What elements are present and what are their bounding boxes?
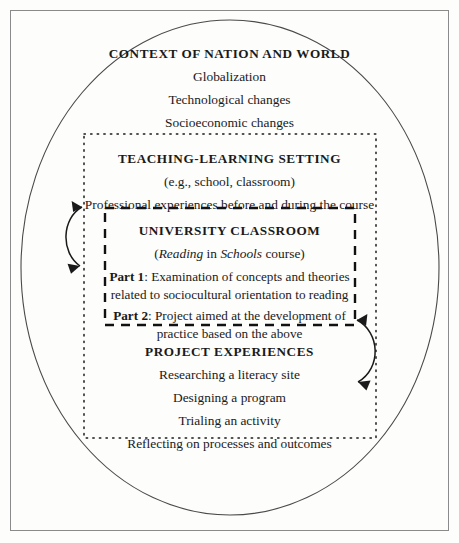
part-2-line-1: Part 2: Project aimed at the development… xyxy=(0,308,459,324)
context-of-nation-and-world-section: CONTEXT OF NATION AND WORLD Globalizatio… xyxy=(0,46,459,131)
teaching-learning-setting-subtitle: (e.g., school, classroom) xyxy=(0,174,459,190)
figure-root: CONTEXT OF NATION AND WORLD Globalizatio… xyxy=(0,0,459,543)
course-title-course-suffix: course) xyxy=(262,246,305,261)
part-2-text-line-1: Project aimed at the development of xyxy=(155,308,346,323)
project-experiences-section: PROJECT EXPERIENCES Researching a litera… xyxy=(0,344,459,452)
project-line-designing-a-program: Designing a program xyxy=(0,390,459,406)
teaching-learning-setting-heading: TEACHING-LEARNING SETTING xyxy=(0,151,459,167)
university-classroom-section: UNIVERSITY CLASSROOM (Reading in Schools… xyxy=(0,223,459,342)
course-title-reading: Reading xyxy=(159,246,204,261)
teaching-learning-setting-section: TEACHING-LEARNING SETTING (e.g., school,… xyxy=(0,151,459,213)
part-1-label: Part 1 xyxy=(109,269,144,284)
part-1-line-2: related to sociocultural orientation to … xyxy=(0,287,459,303)
project-line-trialing-an-activity: Trialing an activity xyxy=(0,413,459,429)
course-title-in: in xyxy=(203,246,220,261)
context-line-socioeconomic-changes: Socioeconomic changes xyxy=(0,115,459,131)
teaching-learning-setting-line-professional-experiences: Professional experiences before and duri… xyxy=(0,197,459,213)
part-2-line-2: practice based on the above xyxy=(0,326,459,342)
part-1-line-1: Part 1: Examination of concepts and theo… xyxy=(0,269,459,285)
part-2-colon: : xyxy=(148,308,155,323)
university-classroom-course-title: (Reading in Schools course) xyxy=(0,246,459,262)
part-1-text-line-1: Examination of concepts and theories xyxy=(151,269,349,284)
context-heading: CONTEXT OF NATION AND WORLD xyxy=(0,46,459,62)
project-line-researching-a-literacy-site: Researching a literacy site xyxy=(0,367,459,383)
context-line-technological-changes: Technological changes xyxy=(0,92,459,108)
course-title-schools: Schools xyxy=(220,246,262,261)
context-line-globalization: Globalization xyxy=(0,69,459,85)
project-experiences-heading: PROJECT EXPERIENCES xyxy=(0,344,459,360)
project-line-reflecting-on-processes-and-outcomes: Reflecting on processes and outcomes xyxy=(0,436,459,452)
university-classroom-heading: UNIVERSITY CLASSROOM xyxy=(0,223,459,239)
part-2-label: Part 2 xyxy=(113,308,148,323)
